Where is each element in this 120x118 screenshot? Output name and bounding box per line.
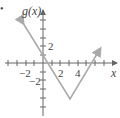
tick-label-x-2: 2 [58,68,64,79]
tick-label-y-2: 2 [48,41,54,52]
x-axis-label: x [111,67,116,79]
tick-label-y-neg2: −2 [29,76,41,87]
curve-g [23,23,100,99]
graph [0,0,120,118]
tick-label-x-4: 4 [75,68,81,79]
y-axis-label: g(x) [22,5,41,17]
